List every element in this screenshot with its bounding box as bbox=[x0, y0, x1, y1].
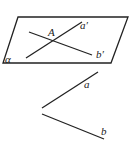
geometry-figure: A a′ b′ α a b bbox=[0, 0, 132, 161]
line-a bbox=[42, 72, 98, 108]
label-plane-alpha: α bbox=[5, 53, 11, 65]
label-a: a bbox=[84, 78, 90, 90]
plane-alpha bbox=[3, 17, 128, 63]
label-point-A: A bbox=[47, 26, 55, 38]
label-b-prime: b′ bbox=[96, 48, 105, 60]
label-a-prime: a′ bbox=[80, 19, 89, 31]
line-b bbox=[42, 114, 104, 139]
label-b: b bbox=[101, 125, 107, 137]
